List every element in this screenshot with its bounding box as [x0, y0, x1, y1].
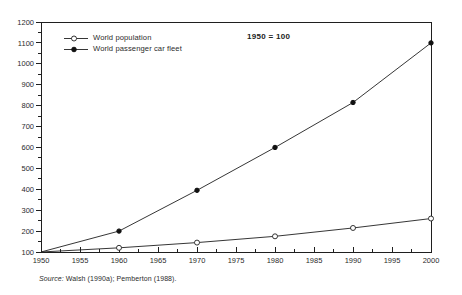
source-text: Walsh (1990a); Pemberton (1988).	[64, 275, 177, 282]
open-circle-line-marker-icon	[64, 34, 88, 43]
y-axis-tick-label: 400	[21, 185, 34, 194]
x-axis-tick-label: 1965	[150, 256, 167, 265]
x-axis-tick-label: 1955	[72, 256, 89, 265]
y-axis-tick-label: 600	[21, 143, 34, 152]
x-axis-tick-label: 1970	[189, 256, 206, 265]
data-point-open-circle	[429, 216, 434, 221]
y-axis-tick-label: 700	[21, 122, 34, 131]
plot-border	[41, 22, 431, 252]
data-point-filled-circle	[195, 188, 199, 192]
filled-circle-line-marker-icon	[64, 45, 88, 54]
legend-item-world-population: World population	[64, 33, 182, 43]
data-point-open-circle	[195, 240, 200, 245]
legend-label-world-passenger-car-fleet: World passenger car fleet	[93, 44, 182, 54]
y-axis-tick-label: 1000	[17, 59, 34, 68]
data-point-filled-circle	[273, 145, 277, 149]
data-point-open-circle	[117, 245, 122, 250]
x-axis-tick-label: 1995	[384, 256, 401, 265]
x-axis-tick-label: 1975	[228, 256, 245, 265]
legend: World population World passenger car fle…	[64, 33, 182, 54]
x-axis-tick-label: 1950	[33, 256, 50, 265]
series-line-world-population	[41, 219, 431, 252]
legend-item-world-passenger-car-fleet: World passenger car fleet	[64, 44, 182, 54]
legend-label-world-population: World population	[93, 33, 151, 43]
x-axis-tick-label: 1980	[267, 256, 284, 265]
y-axis-tick-label: 800	[21, 101, 34, 110]
x-axis-tick-label: 1985	[306, 256, 323, 265]
data-point-filled-circle	[117, 229, 121, 233]
y-axis-tick-label: 500	[21, 164, 34, 173]
x-axis-tick-label: 1960	[111, 256, 128, 265]
y-axis-tick-label: 200	[21, 227, 34, 236]
indexed-growth-line-chart: 1002003004005006007008009001000110012001…	[0, 0, 462, 295]
x-axis-tick-label: 2000	[423, 256, 440, 265]
index-base-note: 1950 = 100	[247, 32, 290, 41]
y-axis-tick-label: 1100	[18, 39, 34, 48]
x-axis-tick-label: 1990	[345, 256, 362, 265]
data-point-filled-circle	[429, 41, 433, 45]
source-note: Source: Walsh (1990a); Pemberton (1988).	[39, 275, 177, 282]
data-point-open-circle	[273, 234, 278, 239]
y-axis-tick-label: 1200	[17, 18, 34, 27]
y-axis-tick-label: 300	[21, 206, 34, 215]
data-point-open-circle	[351, 225, 356, 230]
source-label: Source:	[39, 275, 64, 282]
y-axis-tick-label: 900	[21, 80, 34, 89]
series-line-world-passenger-car-fleet	[41, 43, 431, 252]
data-point-filled-circle	[351, 100, 355, 104]
